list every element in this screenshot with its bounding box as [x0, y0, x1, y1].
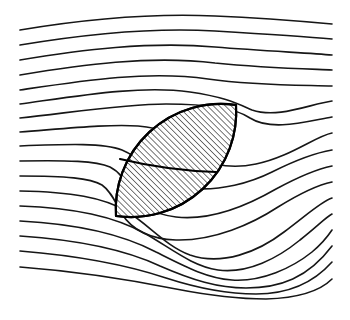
streamline-flow-canvas [0, 0, 350, 320]
flow-diagram-figure: Streamlines deflected around an inclined… [0, 0, 350, 320]
